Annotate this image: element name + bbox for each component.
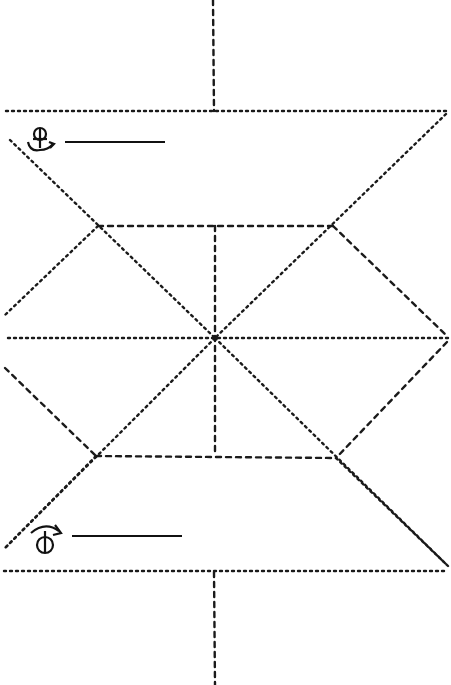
top-center-stub xyxy=(213,0,214,111)
left-upper-side-diagonal xyxy=(5,226,98,315)
diagonal-center-to-bottom-right xyxy=(215,338,448,566)
rotate-fold-icon xyxy=(31,525,61,553)
anchor-fold-icon xyxy=(28,128,54,150)
bottom-center-stub xyxy=(214,572,215,685)
left-lower-outer-diagonal xyxy=(5,456,96,548)
right-lower-side-diagonal xyxy=(336,342,447,458)
inner-bottom-edge xyxy=(96,456,336,458)
right-upper-side-diagonal xyxy=(333,226,447,336)
left-lower-side-diagonal xyxy=(5,368,96,456)
right-lower-outer-diagonal xyxy=(336,458,448,566)
crease-pattern-diagram xyxy=(0,0,451,685)
diagonal-top-left-to-center xyxy=(10,140,215,338)
